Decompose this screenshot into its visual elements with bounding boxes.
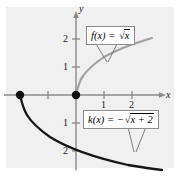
y-tick-label-neg-2: 2 xyxy=(63,146,68,156)
x-tick-label-2: 2 xyxy=(129,100,134,110)
f-function-callout: f(x) = √x xyxy=(86,26,135,45)
callout-f-radicand: x xyxy=(124,29,131,41)
y-tick-label-neg-1: 1 xyxy=(63,118,68,128)
x-tick-label-1: 1 xyxy=(101,100,106,110)
callout-k-sign: − xyxy=(117,114,124,125)
y-tick-label-2: 2 xyxy=(63,34,68,44)
x-axis-label: x xyxy=(166,90,170,100)
callout-f-arg: (x) xyxy=(94,30,106,41)
k-function-callout: k(x) = −√x + 2 xyxy=(83,110,159,129)
callout-k-equals: = xyxy=(107,114,114,125)
leader-line-k xyxy=(128,127,146,152)
curve-k-neg-sqrt-x-plus-2 xyxy=(20,95,162,170)
callout-k-radical: √x + 2 xyxy=(124,113,154,125)
y-axis-label: y xyxy=(79,4,83,14)
endpoint-dot-k-minus2 xyxy=(16,91,24,99)
x-axis xyxy=(4,92,166,98)
curve-f-sqrt-x xyxy=(76,38,152,95)
callout-f-radical: √x xyxy=(118,29,130,41)
endpoint-dot-f-origin xyxy=(72,91,80,99)
callout-f-equals: = xyxy=(108,30,115,41)
graph-figure: y x 1 2 1 2 1 2 f(x) = √x k(x) = −√x + 2 xyxy=(0,0,176,177)
y-tick-label-1: 1 xyxy=(63,62,68,72)
callout-k-arg: (x) xyxy=(93,114,105,125)
callout-k-radicand: x + 2 xyxy=(130,113,154,125)
